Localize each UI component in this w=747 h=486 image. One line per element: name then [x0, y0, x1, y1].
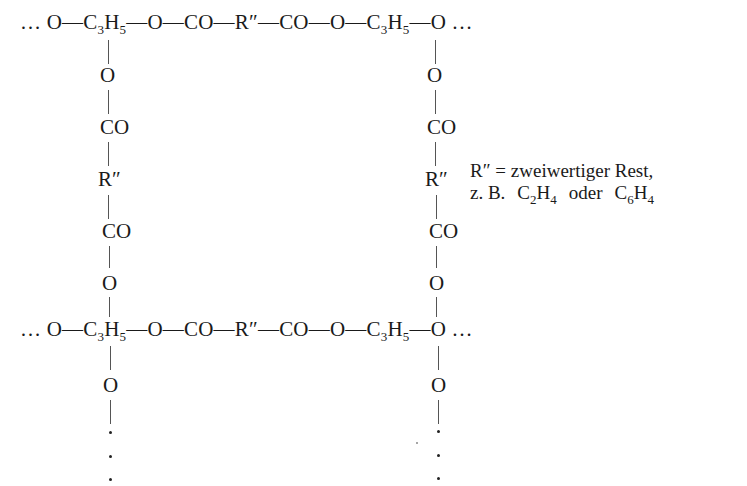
bond-vertical: [436, 195, 437, 219]
ester-linkage: —O—CO—R″—CO—O—: [126, 10, 366, 34]
bond-vertical: [110, 400, 111, 424]
bond-vertical: [436, 297, 437, 317]
bond-vertical: [438, 400, 439, 424]
crosslink-left-o2: O: [102, 273, 117, 294]
bond-vertical: [108, 40, 109, 64]
crosslink-left-co1: CO: [100, 117, 129, 138]
ellipsis-right: …: [446, 10, 473, 34]
terminal-o: —O: [409, 317, 446, 341]
formula-h: H: [537, 182, 551, 203]
subscript: 4: [550, 192, 557, 207]
crosslink-right-co2: CO: [429, 221, 458, 242]
ester-linkage: —O—CO—R″—CO—O—: [126, 317, 366, 341]
atom-h: H: [104, 10, 119, 34]
formula-c: C: [615, 182, 628, 203]
bond: —: [62, 317, 83, 341]
legend-line-2: z. B.C2H4oderC6H4: [470, 182, 654, 204]
bond-vertical: [108, 90, 109, 114]
bond-vertical: [109, 297, 110, 317]
bond: —: [62, 10, 83, 34]
crosslink-left-o1: O: [100, 65, 115, 86]
legend-line-1: R″ = zweiwertiger Rest,: [470, 160, 654, 182]
continuation-dot: [109, 455, 112, 458]
atom-o: O: [47, 317, 62, 341]
formula-c: C: [517, 182, 530, 203]
legend-prefix: z. B.: [470, 182, 505, 203]
crosslink-left-r: R″: [98, 169, 121, 190]
atom-c: C: [366, 10, 380, 34]
polymer-chain-bottom: … O—C3H5—O—CO—R″—CO—O—C3H5—O …: [20, 319, 473, 340]
terminal-o: —O: [409, 10, 446, 34]
speck: [416, 442, 418, 444]
formula-h: H: [634, 182, 648, 203]
atom-c: C: [366, 317, 380, 341]
bond-vertical: [438, 346, 439, 370]
legend: R″ = zweiwertiger Rest, z. B.C2H4oderC6H…: [470, 160, 654, 204]
legend-conjunction: oder: [569, 182, 603, 203]
bond-vertical: [435, 142, 436, 166]
crosslink-right-o2: O: [429, 273, 444, 294]
crosslink-right-r: R″: [425, 169, 448, 190]
crosslink-left-co2: CO: [102, 221, 131, 242]
atom-h: H: [104, 317, 119, 341]
continuation-dot: [109, 431, 112, 434]
continuation-dot: [437, 430, 440, 433]
atom-c: C: [83, 10, 97, 34]
pendant-right-o: O: [431, 375, 446, 396]
bond-vertical: [108, 195, 109, 219]
polymer-chain-top: … O—C3H5—O—CO—R″—CO—O—C3H5—O …: [20, 12, 473, 33]
bond-vertical: [436, 246, 437, 268]
subscript: 4: [647, 192, 654, 207]
atom-h: H: [387, 10, 402, 34]
continuation-dot: [109, 478, 112, 481]
bond-vertical: [110, 346, 111, 370]
bond-vertical: [435, 40, 436, 64]
crosslink-right-co1: CO: [427, 117, 456, 138]
bond-vertical: [108, 142, 109, 166]
crosslink-right-o1: O: [427, 65, 442, 86]
atom-c: C: [83, 317, 97, 341]
atom-h: H: [387, 317, 402, 341]
ellipsis-right: …: [446, 317, 473, 341]
bond-vertical: [109, 246, 110, 268]
bond-vertical: [435, 90, 436, 114]
ellipsis-left: …: [20, 317, 47, 341]
continuation-dot: [437, 477, 440, 480]
atom-o: O: [47, 10, 62, 34]
ellipsis-left: …: [20, 10, 47, 34]
continuation-dot: [437, 454, 440, 457]
pendant-left-o: O: [103, 375, 118, 396]
